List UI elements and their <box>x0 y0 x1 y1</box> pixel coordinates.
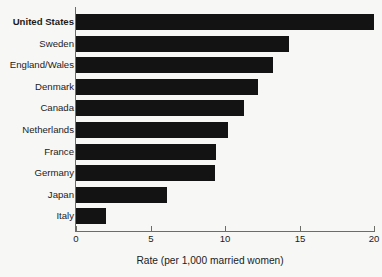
category-label-england-wales: England/Wales <box>10 59 74 71</box>
bar-fill <box>76 79 258 95</box>
x-tick-mark-15 <box>300 226 301 231</box>
category-label-germany: Germany <box>35 167 74 179</box>
x-tick-label-10: 10 <box>220 233 231 244</box>
bar-denmark <box>76 79 258 95</box>
category-label-sweden: Sweden <box>39 38 74 50</box>
category-label-italy: Italy <box>56 210 74 222</box>
bar-fill <box>76 14 374 30</box>
category-label-netherlands: Netherlands <box>22 124 74 136</box>
bar-united-states <box>76 14 374 30</box>
category-label-canada: Canada <box>40 102 74 114</box>
bar-italy <box>76 208 106 224</box>
x-tick-mark-5 <box>151 226 152 231</box>
bar-fill <box>76 165 215 181</box>
bar-fill <box>76 144 216 160</box>
x-tick-label-15: 15 <box>295 233 306 244</box>
x-tick-mark-0 <box>76 226 77 231</box>
category-label-france: France <box>44 146 74 158</box>
bar-canada <box>76 100 244 116</box>
category-label-japan: Japan <box>48 189 74 201</box>
bar-sweden <box>76 36 289 52</box>
bar-france <box>76 144 216 160</box>
x-tick-label-20: 20 <box>369 233 380 244</box>
bar-fill <box>76 187 167 203</box>
bar-fill <box>76 36 289 52</box>
x-tick-mark-10 <box>225 226 226 231</box>
bar-fill <box>76 100 244 116</box>
x-axis-title: Rate (per 1,000 married women) <box>0 255 382 266</box>
category-label-united-states: United States <box>13 16 74 28</box>
bar-england-wales <box>76 57 273 73</box>
x-tick-label-0: 0 <box>73 233 78 244</box>
divorce-rate-bar-chart: United StatesSwedenEngland/WalesDenmarkC… <box>0 0 382 277</box>
bar-fill <box>76 208 106 224</box>
x-axis-line <box>75 231 375 232</box>
bar-japan <box>76 187 167 203</box>
bar-germany <box>76 165 215 181</box>
bar-fill <box>76 122 228 138</box>
x-tick-mark-20 <box>374 226 375 231</box>
bar-netherlands <box>76 122 228 138</box>
x-tick-label-5: 5 <box>148 233 153 244</box>
bar-fill <box>76 57 273 73</box>
category-label-denmark: Denmark <box>35 81 74 93</box>
